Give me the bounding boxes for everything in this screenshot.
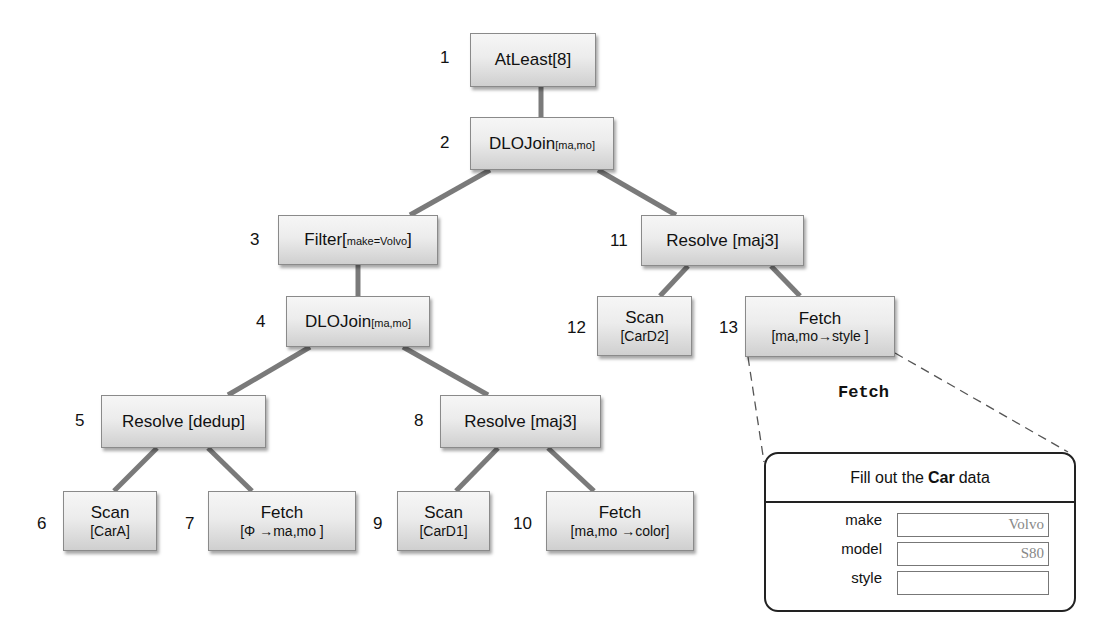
node-number: 12 bbox=[567, 318, 586, 338]
callout-line-left bbox=[748, 357, 764, 462]
node-number: 4 bbox=[256, 312, 265, 332]
edge-5-6 bbox=[114, 448, 157, 491]
edge-4-8 bbox=[403, 347, 488, 395]
node-scan-cara[interactable]: Scan [CarA] bbox=[63, 491, 157, 551]
node-number: 2 bbox=[440, 133, 449, 153]
node-label: Filter[ bbox=[304, 230, 347, 249]
callout-line-right bbox=[895, 353, 1068, 452]
node-number: 5 bbox=[75, 411, 84, 431]
node-param: [Φ →ma,mo ] bbox=[240, 523, 324, 539]
node-number: 13 bbox=[719, 318, 738, 338]
node-fetch-color[interactable]: Fetch [ma,mo →color] bbox=[546, 491, 694, 551]
node-param: [CarD2] bbox=[620, 328, 668, 344]
node-label-suffix: ] bbox=[407, 230, 412, 249]
edge-11-12 bbox=[660, 266, 688, 296]
node-fetch-style[interactable]: Fetch [ma,mo→style ] bbox=[745, 296, 895, 357]
node-number: 11 bbox=[610, 231, 628, 251]
node-resolve-maj3-right[interactable]: Resolve [maj3] bbox=[641, 215, 804, 266]
form-header-entity: Car bbox=[928, 469, 955, 487]
node-label: DLOJoin bbox=[489, 134, 555, 153]
node-filter[interactable]: Filter[make=Volvo] bbox=[278, 215, 438, 265]
form-row-style: style bbox=[766, 569, 1074, 593]
node-number: 9 bbox=[373, 514, 382, 534]
callout-title: Fetch bbox=[838, 383, 889, 402]
node-resolve-maj3-left[interactable]: Resolve [maj3] bbox=[440, 395, 601, 448]
node-number: 1 bbox=[440, 48, 449, 68]
node-scan-card1[interactable]: Scan [CarD1] bbox=[397, 491, 490, 551]
node-label: Resolve [maj3] bbox=[464, 412, 576, 432]
node-number: 10 bbox=[513, 514, 532, 534]
edge-8-9 bbox=[456, 448, 498, 491]
form-header-prefix: Fill out the bbox=[850, 469, 924, 487]
form-row-make: make Volvo bbox=[766, 511, 1074, 535]
edge-5-7 bbox=[208, 448, 252, 491]
node-atleast[interactable]: AtLeast[8] bbox=[470, 33, 596, 87]
node-number: 7 bbox=[185, 514, 194, 534]
make-field[interactable]: Volvo bbox=[897, 513, 1049, 537]
style-field[interactable] bbox=[897, 571, 1049, 595]
edge-2-3 bbox=[410, 170, 490, 215]
node-label: Fetch bbox=[261, 503, 304, 523]
node-param: [CarA] bbox=[90, 523, 130, 539]
node-label: Fetch bbox=[799, 309, 842, 329]
edge-2-11 bbox=[598, 170, 676, 215]
node-param: make=Volvo bbox=[347, 235, 407, 247]
edge-4-5 bbox=[228, 347, 310, 395]
node-label: Scan bbox=[625, 308, 664, 328]
edge-11-13 bbox=[771, 266, 800, 296]
node-number: 8 bbox=[414, 411, 423, 431]
node-param: [CarD1] bbox=[419, 523, 467, 539]
node-param: [ma,mo] bbox=[555, 139, 595, 151]
make-label: make bbox=[845, 511, 882, 528]
node-dlojoin-root[interactable]: DLOJoin[ma,mo] bbox=[470, 117, 614, 170]
car-data-form: Fill out the Car data make Volvo model S… bbox=[764, 452, 1076, 612]
node-label: Resolve [maj3] bbox=[666, 231, 778, 251]
model-field[interactable]: S80 bbox=[897, 542, 1049, 566]
edge-8-10 bbox=[548, 448, 594, 491]
node-param: [ma,mo→style ] bbox=[771, 328, 868, 344]
node-param: [ma,mo →color] bbox=[571, 523, 670, 539]
style-label: style bbox=[851, 569, 882, 586]
form-row-model: model S80 bbox=[766, 540, 1074, 564]
node-label: AtLeast[8] bbox=[495, 50, 572, 70]
node-dlojoin-inner[interactable]: DLOJoin[ma,mo] bbox=[286, 296, 430, 347]
form-header-suffix: data bbox=[959, 469, 990, 487]
model-label: model bbox=[841, 540, 882, 557]
node-param: [ma,mo] bbox=[371, 317, 411, 329]
form-header: Fill out the Car data bbox=[766, 454, 1074, 503]
node-number: 3 bbox=[250, 230, 259, 250]
node-label: Resolve [dedup] bbox=[122, 412, 245, 432]
node-label: Fetch bbox=[599, 503, 642, 523]
node-number: 6 bbox=[37, 514, 46, 534]
node-label: Scan bbox=[424, 503, 463, 523]
node-scan-card2[interactable]: Scan [CarD2] bbox=[597, 296, 692, 356]
node-label: Scan bbox=[91, 503, 130, 523]
node-fetch-ma-mo[interactable]: Fetch [Φ →ma,mo ] bbox=[208, 491, 356, 551]
node-label: DLOJoin bbox=[305, 312, 371, 331]
node-resolve-dedup[interactable]: Resolve [dedup] bbox=[101, 395, 266, 448]
